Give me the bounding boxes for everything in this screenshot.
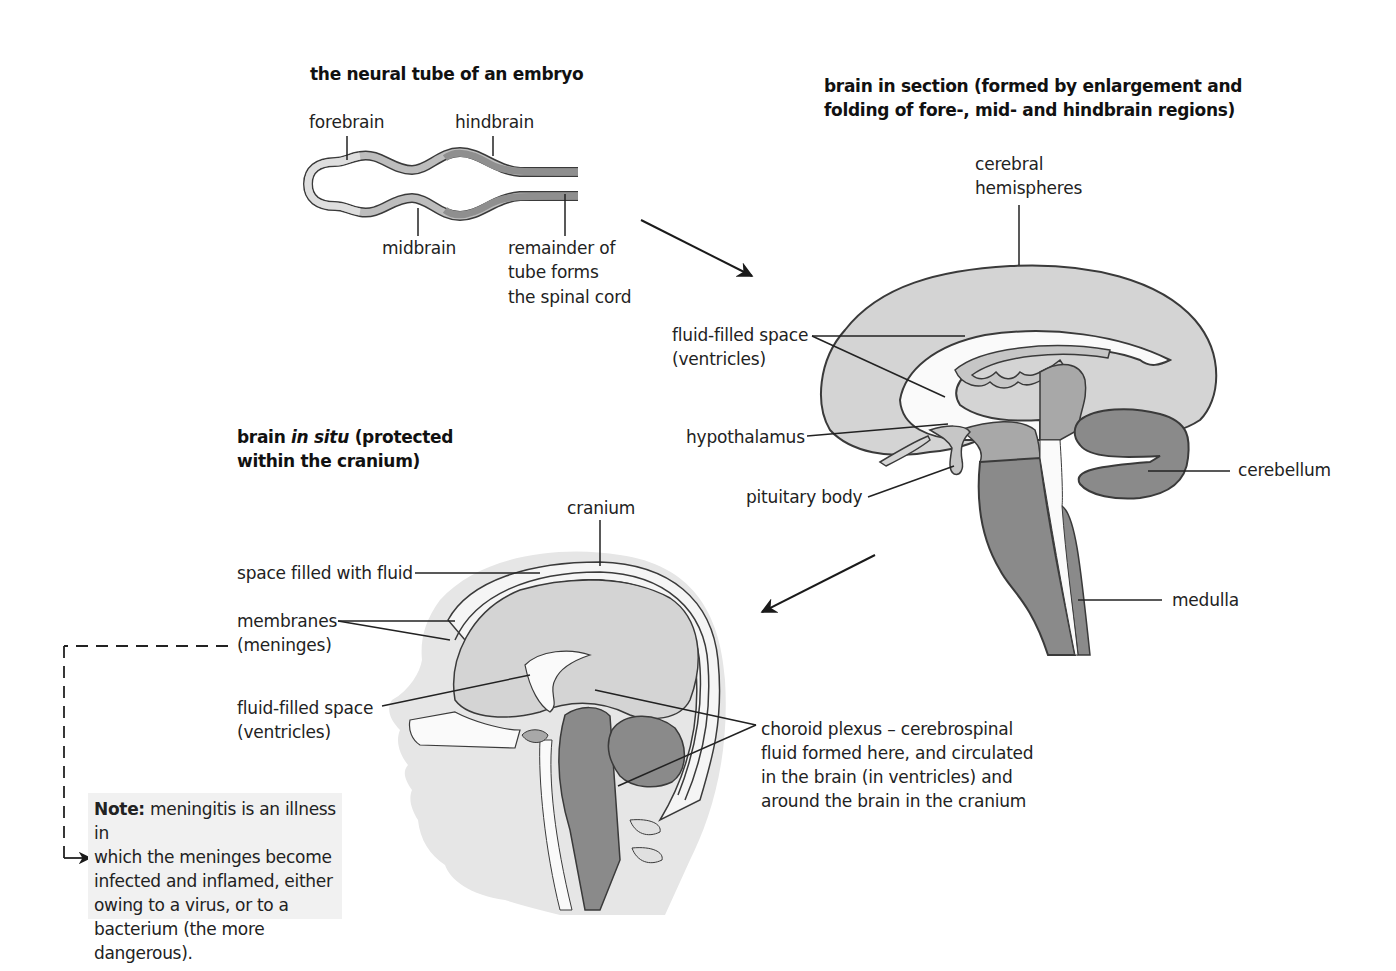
label-choroid-1: choroid plexus – cerebrospinal [761, 717, 1013, 741]
arrow-icon [762, 555, 875, 612]
note-line-1: Note: meningitis is an illness in [94, 797, 336, 845]
label-cerebellum: cerebellum [1238, 458, 1331, 482]
meningitis-note: Note: meningitis is an illness in which … [88, 793, 342, 919]
label-space-fluid: space filled with fluid [237, 561, 413, 585]
label-forebrain: forebrain [309, 110, 384, 134]
label-membranes-1: membranes [237, 609, 337, 633]
label-medulla: medulla [1172, 588, 1239, 612]
label-situ-ventricles-1: fluid-filled space [237, 696, 373, 720]
label-section-ventricles-2: (ventricles) [672, 347, 766, 371]
label-cranium: cranium [567, 496, 635, 520]
label-choroid-4: around the brain in the cranium [761, 789, 1026, 813]
label-choroid-3: in the brain (in ventricles) and [761, 765, 1013, 789]
label-hypothalamus: hypothalamus [686, 425, 805, 449]
label-membranes-2: (meninges) [237, 633, 332, 657]
brain-section-title-2: folding of fore-, mid- and hindbrain reg… [824, 98, 1235, 122]
label-situ-ventricles-2: (ventricles) [237, 720, 331, 744]
brain-section-title-1: brain in section (formed by enlargement … [824, 74, 1242, 98]
note-line-4: owing to a virus, or to a [94, 893, 336, 917]
label-remainder-3: the spinal cord [508, 285, 631, 309]
brain-in-situ-title-1: brain in situ (protected [237, 425, 453, 449]
note-line-3: infected and inflamed, either [94, 869, 336, 893]
label-cerebral-1: cerebral [975, 152, 1043, 176]
note-line-5: bacterium (the more dangerous). [94, 917, 336, 965]
label-choroid-2: fluid formed here, and circulated [761, 741, 1033, 765]
note-line-2: which the meninges become [94, 845, 336, 869]
label-remainder-1: remainder of [508, 236, 615, 260]
label-midbrain: midbrain [382, 236, 456, 260]
brain-in-situ-title-2: within the cranium) [237, 449, 420, 473]
label-remainder-2: tube forms [508, 260, 599, 284]
label-cerebral-2: hemispheres [975, 176, 1082, 200]
arrow-icon [641, 220, 752, 276]
brain-section-drawing [807, 205, 1230, 655]
neural-tube-title: the neural tube of an embryo [310, 62, 584, 86]
diagram-stage: the neural tube of an embryo forebrain h… [0, 0, 1396, 971]
neural-tube-drawing [308, 136, 578, 236]
label-pituitary: pituitary body [746, 485, 862, 509]
label-section-ventricles-1: fluid-filled space [672, 323, 808, 347]
label-hindbrain: hindbrain [455, 110, 534, 134]
